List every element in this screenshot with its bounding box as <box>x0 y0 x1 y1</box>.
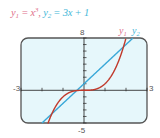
graph-screen <box>0 0 160 138</box>
